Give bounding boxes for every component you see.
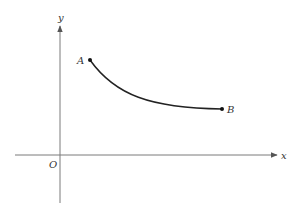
origin-label: O [49, 159, 57, 170]
point-a-dot [88, 58, 92, 62]
x-axis-label: x [281, 150, 287, 161]
curve-a-to-b [90, 60, 222, 109]
y-axis-label: y [57, 12, 64, 23]
point-a-label: A [76, 55, 84, 66]
point-b-dot [220, 107, 224, 111]
point-b-label: B [226, 104, 234, 115]
diagram-canvas: x y O A B [0, 0, 299, 215]
